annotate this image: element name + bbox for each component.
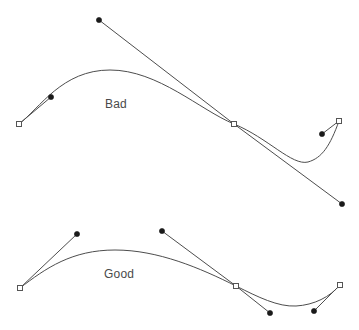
knot-start-good[interactable]	[18, 286, 23, 291]
knot-start-bad[interactable]	[17, 122, 22, 127]
panel-label-bad: Bad	[105, 97, 127, 111]
knot-middle-bad[interactable]	[232, 122, 237, 127]
control-point-3-good[interactable]	[267, 310, 272, 315]
control-point-3-bad[interactable]	[339, 201, 344, 206]
control-point-4-good[interactable]	[311, 308, 316, 313]
knot-end-good[interactable]	[338, 283, 343, 288]
control-point-2-bad[interactable]	[96, 17, 101, 22]
bezier-tangent-illustration: Bad Good	[0, 0, 359, 330]
panel-label-good: Good	[104, 267, 134, 281]
knot-end-bad[interactable]	[337, 119, 342, 124]
canvas-background	[0, 0, 359, 330]
control-point-4-bad[interactable]	[319, 131, 324, 136]
control-point-2-good[interactable]	[159, 228, 164, 233]
knot-middle-good[interactable]	[234, 284, 239, 289]
control-point-1-good[interactable]	[74, 231, 79, 236]
control-point-1-bad[interactable]	[48, 94, 53, 99]
